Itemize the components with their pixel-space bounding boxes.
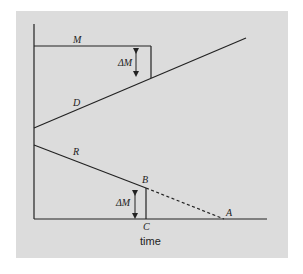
diagram-svg: M ΔM D R B ΔM A C time <box>0 0 303 274</box>
label-m: M <box>72 34 82 45</box>
label-a: A <box>225 207 233 218</box>
label-r: R <box>72 146 79 157</box>
r-extension-dashed <box>146 188 224 219</box>
label-delta-m-top: ΔM <box>117 57 133 68</box>
label-c: C <box>143 221 150 232</box>
x-axis-label: time <box>140 235 161 247</box>
d-line <box>34 38 246 128</box>
label-delta-m-bottom: ΔM <box>115 197 131 208</box>
label-b: B <box>142 174 148 185</box>
r-line <box>34 145 146 188</box>
label-d: D <box>72 97 81 108</box>
